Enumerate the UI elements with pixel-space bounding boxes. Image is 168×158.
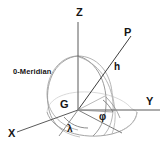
diagram-canvas	[0, 0, 168, 158]
equatorial-disc-right-edge	[118, 112, 137, 132]
height-h-label: h	[114, 62, 120, 72]
geodetic-coordinate-diagram: Z Y X P G h λ φ 0-Meridian	[0, 0, 168, 158]
equator-front-arc	[47, 112, 137, 136]
point-p-label: P	[124, 27, 131, 38]
zero-meridian-label: 0-Meridian	[13, 68, 52, 76]
meridian-arc-through-p	[78, 56, 106, 136]
latitude-phi-label: φ	[99, 112, 106, 122]
origin-g-label: G	[60, 99, 69, 110]
z-axis-label: Z	[76, 7, 83, 18]
ray-g-to-p	[78, 36, 131, 110]
longitude-lambda-label: λ	[67, 124, 73, 134]
latitude-wedge-edge	[78, 96, 105, 110]
x-axis-label: X	[8, 128, 15, 139]
y-axis-label: Y	[146, 96, 153, 107]
